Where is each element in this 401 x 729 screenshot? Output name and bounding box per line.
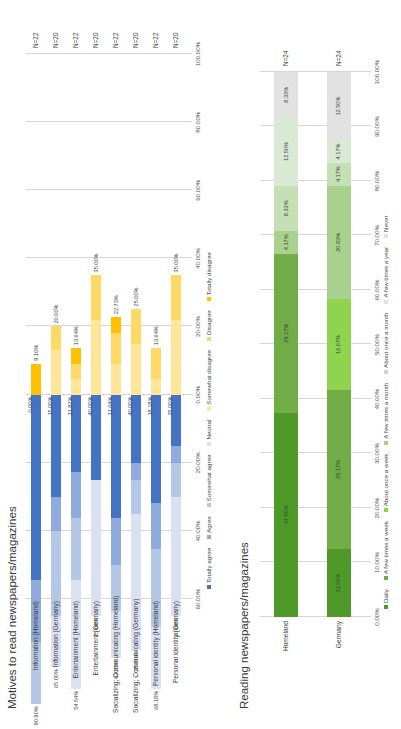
legend-motives-item[interactable]: Neutral (205, 420, 212, 446)
legend-motives-item[interactable]: Totally disagree (205, 252, 212, 301)
bar-segment: 16.67% (327, 299, 351, 390)
value-label-disagree: 13.64% (73, 315, 79, 345)
axis-tick-label: 60.00% (194, 583, 201, 615)
segment-value-label: 4.17% (335, 163, 341, 186)
legend-swatch-icon (207, 585, 211, 589)
value-label-neutral: 35.00% (167, 397, 173, 425)
chart-title-reading: Reading newspapers/magazines (238, 542, 250, 709)
bar-segment (31, 364, 41, 395)
chart-title-motives: Motives to read newspapers/magazines (6, 506, 18, 709)
value-label-neutral: 18.18% (147, 397, 153, 425)
axis-tick-label: 50.00% (373, 329, 380, 361)
bar-segment (91, 480, 101, 616)
segment-value-label: 12.50% (335, 549, 341, 617)
bar-segment (171, 497, 181, 616)
segment-value-label: 12.50% (335, 72, 341, 140)
bar-segment (51, 350, 61, 394)
chart-motives-rotated: Motives to read newspapers/magazines Inf… (0, 0, 232, 717)
segment-value-label: 8.33% (283, 186, 289, 231)
segment-value-label: 4.17% (283, 231, 289, 254)
legend-label: About once a month (382, 313, 389, 368)
chart-reading-rotated: Reading newspapers/magazines 37.50%29.17… (232, 0, 401, 717)
legend-swatch-icon (207, 442, 211, 446)
bar-segment: 4.17% (274, 231, 298, 254)
legend-swatch-icon (384, 234, 388, 238)
axis-tick-label: 30.00% (373, 438, 380, 470)
legend-label: A few times a month (382, 383, 389, 439)
bar-segment (171, 275, 181, 319)
bar-segment (51, 497, 61, 531)
legend-reading-item[interactable]: Daily (382, 589, 389, 609)
bar-segment (171, 446, 181, 463)
value-label-neutral: 15.00% (47, 397, 53, 425)
legend-swatch-icon (384, 370, 388, 374)
bar-segment (151, 503, 161, 549)
legend-motives-item[interactable]: Somewhat disagree (205, 350, 212, 411)
sample-size-label: N=22 (32, 33, 39, 48)
value-label-disagree: 9.10% (33, 331, 39, 361)
value-label-agree: 30.00% (173, 618, 179, 646)
axis-tick-label: 100.00% (194, 38, 201, 70)
segment-value-label: 29.17% (335, 390, 341, 549)
category-label: Socializing; Communicating (Homeland) (112, 601, 119, 713)
legend-motives-item[interactable]: Somewhat agree (205, 455, 212, 508)
bar-segment: 20.83% (327, 186, 351, 300)
gridline (26, 53, 192, 54)
legend-label: Somewhat agree (205, 455, 212, 502)
value-label-disagree: 25.00% (133, 276, 139, 306)
gridline (26, 121, 192, 122)
value-label-neutral: 31.82% (67, 397, 73, 425)
legend-label: Totally agree (205, 548, 212, 583)
bar-segment (131, 463, 141, 480)
bar-segment: 29.17% (274, 254, 298, 413)
axis-tick-label: 20.00% (194, 447, 201, 479)
axis-tick-label: 40.00% (194, 242, 201, 274)
value-label-agree: 68.18% (153, 691, 159, 719)
legend-motives-item[interactable]: Disagree (205, 310, 212, 341)
axis-tick-label: 40.00% (373, 383, 380, 415)
bar-segment (151, 348, 161, 379)
bar-segment (71, 364, 81, 379)
segment-value-label: 12.50% (283, 117, 289, 185)
legend-swatch-icon (384, 300, 388, 304)
legend-motives-item[interactable]: Totally agree (205, 548, 212, 589)
axis-tick-label: 90.00% (373, 111, 380, 143)
segment-value-label: 16.67% (335, 299, 341, 390)
legend-reading-item[interactable]: A few times a week (382, 521, 389, 580)
bar-segment (51, 327, 61, 351)
legend-motives-item[interactable]: Agree (205, 516, 212, 539)
axis-tick-label: 20.00% (194, 311, 201, 343)
gridline (26, 257, 192, 258)
gridline (26, 189, 192, 190)
category-label: Germany (335, 621, 342, 713)
bar-segment (91, 275, 101, 319)
bar-segment (171, 463, 181, 497)
axis-tick-label: 100.00% (373, 56, 380, 88)
bar-segment (131, 480, 141, 514)
bar-segment (71, 472, 81, 518)
axis-tick-label: 60.00% (373, 274, 380, 306)
segment-value-label: 8.33% (283, 72, 289, 117)
bar-segment (131, 344, 141, 395)
sample-size-label: N=20 (172, 33, 179, 48)
legend-label: About once a week (382, 454, 389, 507)
legend-reading: DailyA few times a weekAbout once a week… (382, 215, 389, 609)
bar-segment: 8.33% (274, 72, 298, 117)
legend-reading-item[interactable]: A few times a year (382, 247, 389, 304)
bar-segment (111, 364, 121, 395)
sample-size-label: N=20 (52, 33, 59, 48)
value-label-neutral: 0.00% (27, 397, 33, 425)
legend-reading-item[interactable]: A few times a month (382, 383, 389, 445)
bar-segment (91, 320, 101, 395)
value-label-agree: 54.54% (73, 691, 79, 719)
sample-size-label: N=20 (132, 33, 139, 48)
axis-tick-label: 80.00% (194, 106, 201, 138)
bar-segment: 4.17% (327, 140, 351, 163)
legend-reading-item[interactable]: Never (382, 215, 389, 238)
bar-segment (151, 379, 161, 394)
legend-reading-item[interactable]: About once a month (382, 313, 389, 374)
bar-segment (111, 518, 121, 564)
bar-segment (111, 333, 121, 364)
bar-segment: 4.17% (327, 163, 351, 186)
legend-reading-item[interactable]: About once a week (382, 454, 389, 513)
